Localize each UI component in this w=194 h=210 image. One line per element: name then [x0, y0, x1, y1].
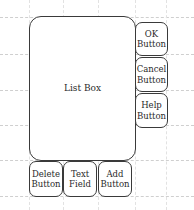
- list-box-label: List Box: [64, 83, 101, 94]
- delete-button-label: Delete Button: [31, 169, 60, 190]
- add-button: Add Button: [98, 161, 132, 197]
- cancel-button-label: Cancel Button: [137, 64, 167, 85]
- cancel-button: Cancel Button: [135, 57, 168, 92]
- ok-button-label: OK Button: [137, 29, 166, 50]
- list-box: List Box: [29, 16, 136, 161]
- ok-button: OK Button: [135, 22, 168, 56]
- help-button: Help Button: [135, 93, 168, 128]
- delete-button: Delete Button: [29, 161, 63, 197]
- add-button-label: Add Button: [100, 169, 129, 190]
- text-field-label: Text Field: [69, 169, 91, 190]
- help-button-label: Help Button: [137, 100, 166, 121]
- text-field: Text Field: [63, 161, 97, 197]
